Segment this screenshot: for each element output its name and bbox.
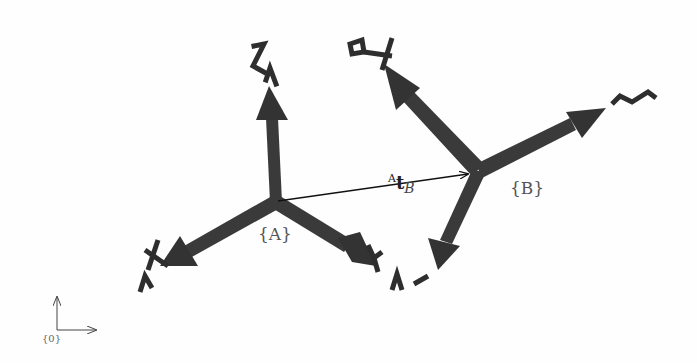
frames-illustration bbox=[0, 0, 697, 363]
frame-b-y-axis bbox=[428, 170, 486, 270]
frame-b-x-axis bbox=[384, 64, 484, 176]
translation-vector-label: AtB bbox=[388, 172, 415, 193]
translation-vector bbox=[278, 174, 468, 201]
frame-b-z-label-glyph bbox=[612, 92, 656, 104]
world-frame-label: {0} bbox=[42, 333, 61, 344]
frame-b-z-axis bbox=[476, 108, 606, 178]
frame-b-label: {B} bbox=[510, 178, 544, 198]
frame-b-y-label-glyph bbox=[392, 274, 428, 290]
frame-b-axes bbox=[350, 38, 656, 290]
diagram-canvas: {A} {B} AtB {0} bbox=[0, 0, 697, 363]
frame-a-x-label-glyph bbox=[140, 240, 168, 292]
world-frame-axes bbox=[57, 297, 96, 330]
frame-b-x-label-glyph bbox=[350, 38, 392, 70]
frame-a-label: {A} bbox=[258, 224, 292, 244]
frame-a-z-label-glyph bbox=[253, 44, 276, 84]
frame-a-z-axis bbox=[256, 86, 288, 202]
frame-a-axes bbox=[140, 44, 382, 292]
